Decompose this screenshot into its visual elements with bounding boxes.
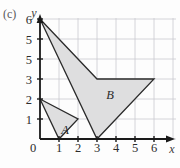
y-tick-label-2: 2 <box>26 93 32 107</box>
coordinate-plot: 1 2 3 5 5 6 0 1 2 3 4 5 6 y x A B <box>0 0 180 168</box>
x-tick-label-5: 5 <box>132 141 138 155</box>
x-tick-label-6: 6 <box>151 141 157 155</box>
shape-a-label: A <box>60 123 69 137</box>
y-tick-label-5: 5 <box>26 33 32 47</box>
x-tick-label-1: 1 <box>56 141 62 155</box>
y-tick-label-3: 3 <box>26 73 32 87</box>
x-tick-label-3: 3 <box>94 141 100 155</box>
y-tick-label-4: 5 <box>26 53 32 67</box>
x-tick-label-4: 4 <box>113 141 120 155</box>
shape-b-label: B <box>106 88 114 102</box>
x-axis-label: x <box>168 142 175 156</box>
x-tick-label-2: 2 <box>75 141 81 155</box>
origin-label: 0 <box>30 141 36 155</box>
y-tick-label-1: 1 <box>26 113 32 127</box>
figure-container: (c) <box>0 0 180 168</box>
y-axis-label: y <box>30 6 37 20</box>
